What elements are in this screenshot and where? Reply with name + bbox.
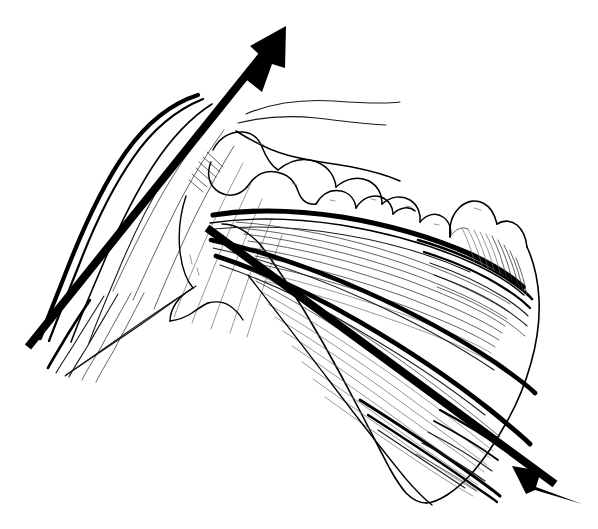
shoulder-line-drawing: Shoulder girdle anatomical line drawing … [0, 0, 598, 529]
arrow-inferolateral [207, 228, 582, 504]
deltoid-muscle [40, 95, 282, 382]
anatomical-figure: Shoulder girdle anatomical line drawing … [0, 0, 598, 529]
